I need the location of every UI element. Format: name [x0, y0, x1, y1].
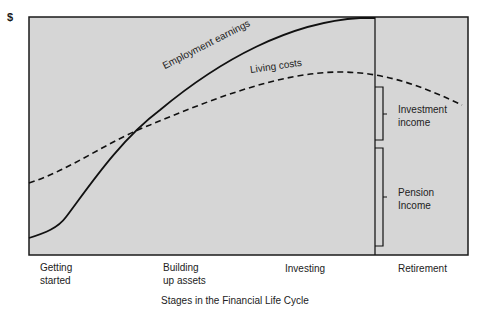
x-axis-caption: Stages in the Financial Life Cycle: [161, 295, 309, 307]
plot-frame: [29, 17, 468, 255]
stage-retirement: Retirement: [398, 263, 447, 275]
investment-income-label-1: Investment: [398, 104, 447, 116]
stage-getting-started-2: started: [40, 275, 71, 287]
investment-income-label-2: income: [398, 117, 430, 129]
stage-building-2: up assets: [163, 275, 206, 287]
stage-getting-started-1: Getting: [40, 262, 72, 274]
stage-investing: Investing: [285, 263, 325, 275]
stage-building-1: Building: [163, 262, 199, 274]
pension-income-label-1: Pension: [398, 187, 434, 199]
pension-income-label-2: Income: [398, 200, 431, 212]
